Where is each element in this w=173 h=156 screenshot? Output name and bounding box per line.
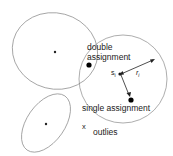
radius-label-subscript: i — [138, 72, 139, 78]
radius-label: ri — [136, 69, 139, 78]
single-assignment-point — [128, 97, 133, 102]
center-label: si — [111, 69, 116, 78]
radius-arrowhead-outer — [150, 59, 155, 63]
center-label-subscript: i — [115, 72, 116, 78]
double-assignment-label-line2: assignment — [87, 53, 130, 62]
double-assignment-point — [86, 62, 91, 67]
double-assignment-label-line1: double — [87, 43, 113, 52]
cluster-ellipse-bottom-left — [12, 85, 81, 156]
cluster-center-bottom-left — [45, 123, 47, 125]
cluster-diagram — [0, 0, 173, 156]
assignment-arrowhead — [127, 92, 132, 97]
outlier-marker: x — [82, 123, 86, 131]
assignment-arrow — [121, 75, 129, 95]
outlier-label: outlies — [93, 128, 118, 137]
cluster-center-top-left — [54, 51, 56, 53]
single-assignment-label: single assignment — [82, 104, 150, 113]
